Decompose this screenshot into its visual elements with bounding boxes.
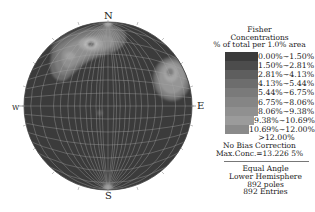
legend-range-label: 9.38%~10.69%	[254, 116, 315, 125]
legend-swatch	[225, 52, 258, 61]
legend-swatch	[225, 70, 258, 79]
legend-range-label: 5.44%~6.75%	[258, 88, 314, 97]
legend-range-label: 6.75%~8.06%	[258, 98, 314, 107]
legend-scale: 0.00%~1.50% 1.50%~2.81% 2.81%~4.13% 4.13…	[225, 52, 315, 135]
legend-swatch	[225, 79, 258, 88]
legend-swatch	[225, 88, 258, 97]
south-label: S	[105, 191, 112, 201]
legend-row: 10.69%~12.00%	[225, 125, 315, 134]
legend-divider	[224, 161, 309, 162]
legend-swatch	[225, 107, 258, 116]
legend-title-3: % of total per 1.0% area	[204, 41, 315, 49]
legend-swatch	[225, 116, 254, 125]
legend-row: 9.38%~10.69%	[225, 116, 315, 125]
entry-count: 892 Entries	[204, 188, 315, 196]
legend-range-label: 8.06%~9.38%	[258, 107, 314, 116]
west-label: W	[12, 103, 19, 113]
legend-swatch	[225, 61, 258, 70]
legend-swatch	[225, 97, 258, 106]
legend-row: 5.44%~6.75%	[225, 88, 315, 97]
legend-range-label: 0.00%~1.50%	[258, 52, 314, 61]
wulff-grid	[20, 8, 196, 204]
legend-range-label: 1.50%~2.81%	[258, 61, 314, 70]
legend-row: 6.75%~8.06%	[225, 97, 315, 106]
legend-range-label: 10.69%~12.00%	[249, 125, 315, 134]
legend: Fisher Concentrations % of total per 1.0…	[204, 26, 315, 196]
legend-row: 8.06%~9.38%	[225, 107, 315, 116]
legend-swatch	[225, 125, 249, 134]
north-label: N	[104, 11, 113, 21]
stereonet-plot	[0, 0, 215, 212]
legend-row: 2.81%~4.13%	[225, 70, 315, 79]
legend-range-label: 4.13%~5.44%	[258, 79, 314, 88]
legend-range-label: 2.81%~4.13%	[258, 70, 314, 79]
max-concentration: Max.Conc.=13.226 5%	[204, 150, 315, 158]
legend-row: 1.50%~2.81%	[225, 61, 315, 70]
legend-row: 4.13%~5.44%	[225, 79, 315, 88]
legend-row: 0.00%~1.50%	[225, 52, 315, 61]
